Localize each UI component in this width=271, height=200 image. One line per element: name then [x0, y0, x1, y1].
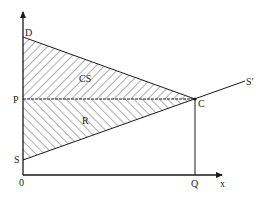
surplus-diagram: D P S 0 C Q x S′ CS R	[0, 0, 271, 200]
label-r: R	[82, 115, 89, 126]
diagram-container: D P S 0 C Q x S′ CS R	[0, 0, 271, 200]
label-s: S	[14, 154, 20, 165]
label-d: D	[25, 27, 32, 38]
label-p: P	[13, 94, 19, 105]
label-c: C	[198, 98, 205, 109]
label-cs: CS	[79, 73, 91, 84]
label-origin: 0	[19, 177, 24, 188]
equilibrium-point	[193, 97, 196, 100]
label-x: x	[220, 178, 225, 189]
label-s-prime: S′	[246, 76, 254, 87]
label-q: Q	[191, 178, 199, 189]
